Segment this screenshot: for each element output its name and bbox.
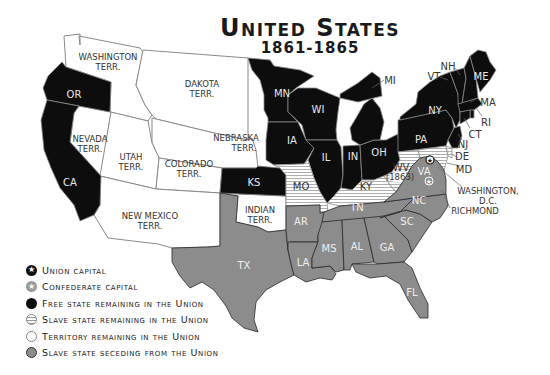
- label-richmond: RICHMOND: [451, 206, 499, 216]
- label-utah-terr: UTAH: [120, 152, 143, 162]
- legend-label: Free state remaining in the Union: [42, 298, 204, 309]
- label-utah-terr-2: TERR.: [118, 162, 144, 172]
- slave-union-swatch-icon: [26, 314, 37, 325]
- legend-label: Union capital: [42, 265, 106, 276]
- label-ny: NY: [428, 105, 442, 116]
- label-fl: FL: [406, 287, 418, 298]
- label-va: VA: [417, 166, 430, 177]
- label-new-mexico-terr: NEW MEXICO: [122, 211, 179, 221]
- rhode-island-state: [470, 110, 474, 118]
- label-washington-dc-2: D.C.: [479, 196, 497, 206]
- label-in: IN: [348, 151, 358, 162]
- label-il: IL: [322, 152, 331, 163]
- label-pa: PA: [415, 134, 427, 145]
- label-la: LA: [297, 257, 310, 268]
- svg-text:★: ★: [427, 157, 433, 165]
- label-ga: GA: [380, 242, 395, 253]
- label-mo: MO: [293, 181, 310, 192]
- label-tx: TX: [237, 260, 251, 271]
- label-washington-dc: WASHINGTON,: [457, 186, 519, 196]
- label-nevada-terr: NEVADA: [72, 134, 107, 144]
- label-nj: NJ: [458, 139, 468, 150]
- label-ri: RI: [481, 117, 491, 128]
- label-washington-terr-2: TERR.: [95, 62, 121, 72]
- legend-item-confederate-capital: ★ Confederate capital: [26, 279, 219, 296]
- label-wi: WI: [312, 104, 325, 115]
- label-ky: KY: [360, 181, 373, 192]
- legend-label: Slave state seceding from the Union: [42, 347, 219, 358]
- label-ms: MS: [322, 243, 337, 254]
- legend-item-slave-union: Slave state remaining in the Union: [26, 312, 219, 329]
- union-capital-marker: ★: [426, 156, 434, 165]
- connecticut-state: [460, 110, 470, 124]
- svg-text:★: ★: [426, 178, 432, 186]
- label-washington-terr: WASHINGTON: [79, 52, 138, 62]
- label-nevada-terr-2: TERR.: [77, 144, 103, 154]
- label-indian-terr: INDIAN: [245, 205, 275, 215]
- label-vt: VT: [428, 71, 442, 82]
- label-dakota-terr-2: TERR.: [189, 89, 215, 99]
- label-ct: CT: [468, 129, 482, 140]
- label-new-mexico-terr-2: TERR.: [137, 221, 163, 231]
- label-al: AL: [351, 241, 364, 252]
- label-nh: NH: [441, 61, 456, 72]
- legend-item-free-state: Free state remaining in the Union: [26, 295, 219, 312]
- label-me: ME: [474, 71, 489, 82]
- label-ca: CA: [63, 177, 77, 188]
- michigan-state: [340, 72, 384, 145]
- label-md: MD: [456, 164, 473, 175]
- label-or: OR: [67, 89, 82, 100]
- legend-item-union-capital: ★ Union capital: [26, 262, 219, 279]
- free-state-swatch-icon: [26, 298, 37, 309]
- label-de: DE: [455, 151, 469, 162]
- legend-label: Confederate capital: [42, 281, 138, 292]
- label-oh: OH: [371, 147, 386, 158]
- confederate-capital-marker: ★: [425, 177, 433, 186]
- label-colorado-terr: COLORADO: [165, 159, 214, 169]
- label-mn: MN: [274, 88, 290, 99]
- legend-label: Slave state remaining in the Union: [42, 314, 209, 325]
- label-tn: TN: [349, 202, 364, 213]
- label-nc: NC: [412, 195, 426, 206]
- territory-swatch-icon: [26, 331, 37, 342]
- label-dakota-terr: DAKOTA: [185, 79, 220, 89]
- legend-item-territory: Territory remaining in the Union: [26, 328, 219, 345]
- label-wv-year: (1863): [386, 172, 414, 182]
- legend-label: Territory remaining in the Union: [42, 331, 200, 342]
- label-nebraska-terr: NEBRASKA: [213, 133, 259, 143]
- seceding-swatch-icon: [26, 347, 37, 358]
- label-colorado-terr-2: TERR.: [176, 169, 202, 179]
- label-indian-terr-2: TERR.: [247, 215, 273, 225]
- label-ks: KS: [248, 177, 261, 188]
- confederate-capital-star-icon: ★: [26, 281, 37, 292]
- label-nebraska-terr-2: TERR.: [231, 143, 257, 153]
- label-ar: AR: [294, 216, 308, 227]
- legend-item-seceding: Slave state seceding from the Union: [26, 345, 219, 362]
- union-capital-star-icon: ★: [26, 265, 37, 276]
- utah-territory: [100, 112, 159, 189]
- map-legend: ★ Union capital ★ Confederate capital Fr…: [26, 262, 219, 361]
- label-sc: SC: [400, 216, 413, 227]
- label-ma: MA: [480, 97, 496, 108]
- label-ia: IA: [287, 135, 297, 146]
- label-mi: MI: [384, 75, 396, 86]
